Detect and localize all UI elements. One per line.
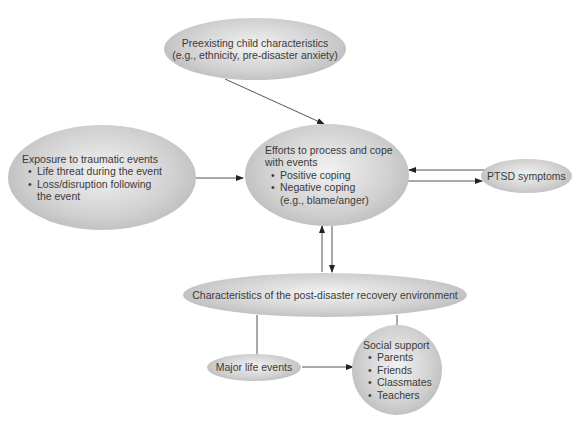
node-exposure-traumatic-events: Exposure to traumatic events Life threat… xyxy=(8,125,196,230)
social-support-item: Parents xyxy=(368,351,442,364)
exposure-title: Exposure to traumatic events xyxy=(22,153,196,166)
recovery-title: Characteristics of the post-disaster rec… xyxy=(192,289,458,302)
coping-title-line1: Efforts to process and cope xyxy=(265,144,409,157)
preexisting-subtitle: (e.g., ethnicity, pre-disaster anxiety) xyxy=(172,49,338,62)
social-support-item: Friends xyxy=(368,364,442,377)
social-support-item: Classmates xyxy=(368,376,442,389)
node-preexisting-characteristics: Preexisting child characteristics (e.g.,… xyxy=(164,18,346,80)
coping-note: (e.g., blame/anger) xyxy=(271,194,409,207)
node-recovery-environment: Characteristics of the post-disaster rec… xyxy=(183,273,467,317)
node-social-support: Social support Parents Friends Classmate… xyxy=(352,325,442,415)
life-events-title: Major life events xyxy=(216,361,292,374)
node-ptsd-symptoms: PTSD symptoms xyxy=(481,159,572,193)
social-support-title: Social support xyxy=(363,339,442,352)
exposure-item-continued: the event xyxy=(28,190,196,203)
exposure-item: Loss/disruption following xyxy=(28,178,196,191)
node-major-life-events: Major life events xyxy=(207,354,301,381)
arrow-preexisting-to-coping xyxy=(225,79,324,124)
preexisting-title: Preexisting child characteristics xyxy=(172,37,338,50)
exposure-item: Life threat during the event xyxy=(28,165,196,178)
social-support-item: Teachers xyxy=(368,389,442,402)
coping-item: Positive coping xyxy=(271,169,409,182)
coping-item: Negative coping xyxy=(271,181,409,194)
coping-title-line2: with events xyxy=(265,156,409,169)
node-coping-efforts: Efforts to process and cope with events … xyxy=(245,124,409,226)
ptsd-title: PTSD symptoms xyxy=(487,170,566,183)
